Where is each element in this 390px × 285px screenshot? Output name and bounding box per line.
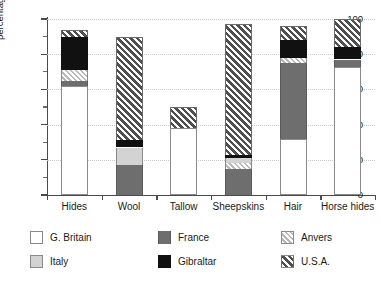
y-tick-60 <box>41 89 47 90</box>
legend-item-france[interactable]: France <box>158 231 209 244</box>
segment-sheepskins-france[interactable] <box>225 169 252 195</box>
x-axis-label-tallow: Tallow <box>156 201 211 212</box>
legend-label-gibraltar: Gibraltar <box>178 257 216 267</box>
segment-horse-hides-g-britain[interactable] <box>334 67 361 195</box>
x-axis-label-sheepskins: Sheepskins <box>211 201 266 212</box>
gridline-20 <box>47 160 375 161</box>
legend-label-italy: Italy <box>50 257 68 267</box>
x-tick-1 <box>102 195 103 200</box>
x-tick-4 <box>266 195 267 200</box>
legend-item-g-britain[interactable]: G. Britain <box>30 231 92 244</box>
legend-swatch-italy <box>30 255 43 268</box>
segment-tallow-u-s-a[interactable] <box>170 107 197 128</box>
legend-swatch-u-s-a <box>281 255 294 268</box>
bar-hair[interactable] <box>280 26 307 195</box>
legend-label-anvers: Anvers <box>301 233 332 243</box>
bar-tallow[interactable] <box>170 107 197 195</box>
y-tick-100 <box>41 18 47 19</box>
segment-wool-u-s-a[interactable] <box>116 37 143 141</box>
x-tick-0 <box>47 195 48 200</box>
legend-label-g-britain: G. Britain <box>50 233 92 243</box>
segment-sheepskins-gibraltar[interactable] <box>225 155 252 159</box>
segment-hair-gibraltar[interactable] <box>280 40 307 58</box>
legend-label-france: France <box>178 233 209 243</box>
segment-hides-anvers[interactable] <box>61 70 88 81</box>
legend-swatch-gibraltar <box>158 255 171 268</box>
legend-swatch-anvers <box>281 231 294 244</box>
legend-item-gibraltar[interactable]: Gibraltar <box>158 255 216 268</box>
y-minor-tick-30 <box>43 142 47 143</box>
segment-wool-france[interactable] <box>116 165 143 195</box>
legend-label-u-s-a: U.S.A. <box>301 257 330 267</box>
gridline-100 <box>47 19 375 20</box>
bar-wool[interactable] <box>116 37 143 195</box>
x-axis-label-hides: Hides <box>47 201 102 212</box>
segment-sheepskins-italy[interactable] <box>225 158 252 163</box>
segment-wool-gibraltar[interactable] <box>116 140 143 147</box>
segment-sheepskins-anvers[interactable] <box>225 163 252 168</box>
segment-hides-u-s-a[interactable] <box>61 30 88 37</box>
y-tick-40 <box>41 124 47 125</box>
x-axis-label-horse-hides: Horse hides <box>320 201 375 212</box>
segment-sheepskins-u-s-a[interactable] <box>225 24 252 154</box>
x-tick-2 <box>156 195 157 200</box>
legend-item-italy[interactable]: Italy <box>30 255 68 268</box>
bar-sheepskins[interactable] <box>225 24 252 195</box>
gridline-80 <box>47 54 375 55</box>
x-axis-label-wool: Wool <box>102 201 157 212</box>
segment-horse-hides-france[interactable] <box>334 60 361 67</box>
segment-tallow-g-britain[interactable] <box>170 128 197 195</box>
gridline-60 <box>47 89 375 90</box>
y-axis-title: percentage of total item value <box>0 0 5 40</box>
segment-hides-g-britain[interactable] <box>61 86 88 195</box>
y-minor-tick-90 <box>43 36 47 37</box>
y-tick-20 <box>41 159 47 160</box>
segment-hides-france[interactable] <box>61 81 88 86</box>
legend-swatch-france <box>158 231 171 244</box>
segment-horse-hides-u-s-a[interactable] <box>334 19 361 47</box>
segment-hair-france[interactable] <box>280 63 307 139</box>
segment-hair-g-britain[interactable] <box>280 139 307 195</box>
x-tick-6 <box>375 195 376 200</box>
segment-horse-hides-gibraltar[interactable] <box>334 47 361 59</box>
x-tick-5 <box>320 195 321 200</box>
segment-hair-u-s-a[interactable] <box>280 26 307 40</box>
x-axis-label-hair: Hair <box>266 201 321 212</box>
segment-hair-anvers[interactable] <box>280 58 307 63</box>
legend-item-u-s-a[interactable]: U.S.A. <box>281 255 330 268</box>
plot-area: 020406080100 <box>47 19 375 195</box>
legend-swatch-g-britain <box>30 231 43 244</box>
segment-wool-italy[interactable] <box>116 148 143 166</box>
stacked-bar-chart: 020406080100 percentage of total item va… <box>0 0 390 285</box>
gridline-40 <box>47 125 375 126</box>
chart-legend: G. BritainItalyFranceGibraltarAnversU.S.… <box>30 231 382 277</box>
legend-item-anvers[interactable]: Anvers <box>281 231 332 244</box>
y-tick-80 <box>41 54 47 55</box>
y-minor-tick-50 <box>43 106 47 107</box>
y-minor-tick-70 <box>43 71 47 72</box>
bar-hides[interactable] <box>61 30 88 195</box>
y-minor-tick-10 <box>43 177 47 178</box>
segment-hides-gibraltar[interactable] <box>61 37 88 70</box>
bar-horse-hides[interactable] <box>334 19 361 195</box>
x-tick-3 <box>211 195 212 200</box>
